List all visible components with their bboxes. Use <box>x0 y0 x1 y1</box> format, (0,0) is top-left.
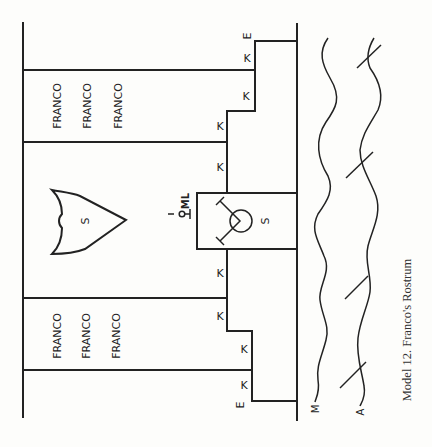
step-label-k: K <box>216 310 224 323</box>
banner-text: FRANCO <box>112 83 125 129</box>
crossing-tick <box>346 152 373 178</box>
step-label-e: E <box>234 401 247 408</box>
step-label-k: K <box>216 161 224 174</box>
speaker-box <box>197 193 297 249</box>
mic-label: ML <box>180 192 191 209</box>
wavy-line-a <box>358 38 381 406</box>
rostrum-diagram: S ML S FRANCO FRANCO FRANCO FRANCO FRANC… <box>0 0 432 447</box>
banner-text: FRANCO <box>110 313 123 359</box>
step-label-k: K <box>216 120 224 133</box>
top-steps <box>227 41 297 193</box>
step-label-k: K <box>240 379 248 392</box>
step-label-k: K <box>242 90 250 103</box>
step-label-e: E <box>241 32 254 39</box>
shield-label: S <box>79 217 92 224</box>
banner-text: FRANCO <box>80 313 93 359</box>
figure-caption: Model 12. Franco's Rostrum <box>400 258 414 401</box>
box-label: S <box>259 217 272 224</box>
wave-label-m: M <box>310 405 321 414</box>
wave-label-a: A <box>355 408 366 415</box>
banner-text: FRANCO <box>81 83 94 129</box>
step-label-k: K <box>216 267 224 280</box>
step-label-k: K <box>240 343 248 356</box>
speaker-icon <box>216 197 252 245</box>
wavy-line-m <box>315 38 337 402</box>
crossing-tick <box>345 276 368 299</box>
step-label-k: K <box>243 52 251 65</box>
microphone-icon <box>168 209 190 219</box>
banner-text: FRANCO <box>51 83 64 129</box>
banner-text: FRANCO <box>51 313 64 359</box>
bottom-steps <box>227 249 297 401</box>
